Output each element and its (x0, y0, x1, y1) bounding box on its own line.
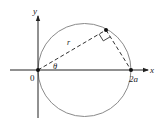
origin-point (36, 68, 40, 72)
diameter-end-point (129, 68, 133, 72)
right-angle-marker (99, 34, 110, 41)
chord-segment (106, 30, 131, 70)
x-axis-label: x (149, 65, 154, 75)
angle-label: θ (53, 61, 57, 71)
origin-label: 0 (30, 73, 35, 83)
polar-diagram: y x 0 2a r θ (0, 0, 164, 124)
radius-label: r (67, 38, 71, 47)
circle-point (104, 28, 108, 32)
y-axis-label: y (32, 6, 37, 16)
diameter-end-label: 2a (129, 74, 139, 84)
radius-segment (38, 30, 106, 70)
